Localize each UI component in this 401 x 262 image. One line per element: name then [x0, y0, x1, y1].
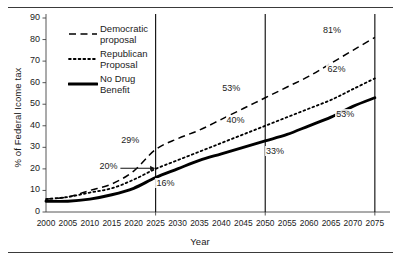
series-line-solid — [46, 98, 375, 202]
x-tick-label: 2065 — [319, 218, 343, 228]
x-tick-label: 2045 — [231, 218, 255, 228]
x-tick-label: 2005 — [56, 218, 80, 228]
x-tick-label: 2050 — [253, 218, 277, 228]
legend-label: RepublicanProposal — [100, 49, 148, 70]
y-tick-label: 20 — [18, 163, 40, 173]
legend-label-line1: Republican — [100, 49, 148, 60]
x-tick-label: 2040 — [209, 218, 233, 228]
chart-figure: % of Federal Icome tax Year 010203040506… — [0, 0, 401, 262]
data-label-53pct: 53% — [221, 83, 241, 93]
legend-label: No DrugBenefit — [100, 74, 135, 95]
legend-label-line1: No Drug — [100, 74, 135, 85]
data-label-53pct: 53% — [335, 109, 355, 119]
legend-swatch-solid — [68, 78, 98, 90]
y-tick-label: 0 — [18, 206, 40, 216]
y-tick-label: 50 — [18, 98, 40, 108]
legend-swatch-dashed — [68, 28, 98, 40]
legend-label: Democraticproposal — [100, 24, 148, 45]
x-tick-label: 2030 — [166, 218, 190, 228]
x-tick-label: 2000 — [34, 218, 58, 228]
x-tick-label: 2060 — [297, 218, 321, 228]
legend-label-line2: Proposal — [100, 60, 148, 71]
data-label-81pct: 81% — [322, 25, 342, 35]
x-tick-label: 2025 — [144, 218, 168, 228]
legend-label-line2: Benefit — [100, 85, 135, 96]
legend-label-line1: Democratic — [100, 24, 148, 35]
x-tick-label: 2035 — [187, 218, 211, 228]
data-label-40pct: 40% — [226, 115, 246, 125]
data-label-62pct: 62% — [326, 64, 346, 74]
series-line-dotted — [46, 78, 375, 199]
x-tick-label: 2010 — [78, 218, 102, 228]
data-label-16pct: 16% — [155, 178, 175, 188]
data-label-33pct: 33% — [265, 146, 285, 156]
x-tick-label: 2070 — [341, 218, 365, 228]
x-tick-label: 2075 — [363, 218, 387, 228]
x-tick-label: 2020 — [122, 218, 146, 228]
y-tick-label: 70 — [18, 55, 40, 65]
data-label-20pct: 20% — [98, 161, 118, 171]
y-tick-label: 80 — [18, 34, 40, 44]
annotation-arrow — [120, 166, 154, 171]
x-tick-label: 2055 — [275, 218, 299, 228]
y-tick-label: 40 — [18, 120, 40, 130]
data-label-29pct: 29% — [120, 135, 140, 145]
y-tick-label: 60 — [18, 77, 40, 87]
legend-swatch-dotted — [68, 53, 98, 65]
x-axis-title: Year — [160, 236, 240, 247]
x-tick-label: 2015 — [100, 218, 124, 228]
legend-label-line2: proposal — [100, 35, 148, 46]
y-tick-label: 30 — [18, 141, 40, 151]
y-tick-label: 90 — [18, 12, 40, 22]
y-tick-label: 10 — [18, 184, 40, 194]
